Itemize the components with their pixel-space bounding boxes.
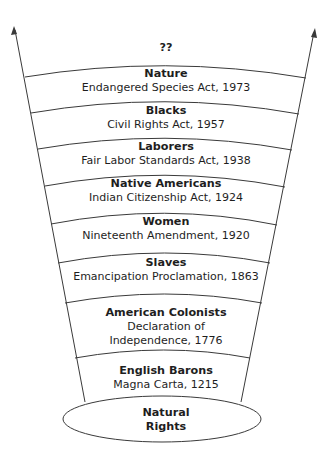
- band-event: Indian Citizenship Act, 1924: [0, 191, 332, 205]
- arc-divider: [65, 294, 262, 303]
- band-event: Fair Labor Standards Act, 1938: [0, 154, 332, 168]
- band-english-barons: English Barons Magna Carta, 1215: [0, 364, 332, 392]
- left-arrow-icon: [11, 26, 17, 35]
- band-women: Women Nineteenth Amendment, 1920: [0, 215, 332, 243]
- band-laborers: Laborers Fair Labor Standards Act, 1938: [0, 140, 332, 168]
- band-event: Emancipation Proclamation, 1863: [0, 270, 332, 284]
- band-event: Nineteenth Amendment, 1920: [0, 229, 332, 243]
- band-event: Endangered Species Act, 1973: [0, 81, 332, 95]
- band-event: Declaration of: [0, 320, 332, 334]
- band-native-americans: Native Americans Indian Citizenship Act,…: [0, 177, 332, 205]
- band-title: Slaves: [0, 256, 332, 270]
- band-nature: Nature Endangered Species Act, 1973: [0, 67, 332, 95]
- band-slaves: Slaves Emancipation Proclamation, 1863: [0, 256, 332, 284]
- band-event: Independence, 1776: [0, 334, 332, 348]
- band-american-colonists: American Colonists Declaration of Indepe…: [0, 306, 332, 348]
- band-event: Civil Rights Act, 1957: [0, 118, 332, 132]
- top-label: ??: [0, 41, 332, 55]
- band-title: Laborers: [0, 140, 332, 154]
- band-event: Magna Carta, 1215: [0, 378, 332, 392]
- base-natural-rights: Natural Rights: [0, 406, 332, 434]
- band-blacks: Blacks Civil Rights Act, 1957: [0, 104, 332, 132]
- arc-divider: [75, 350, 250, 358]
- band-title: Nature: [0, 67, 332, 81]
- band-title: Native Americans: [0, 177, 332, 191]
- band-title: Women: [0, 215, 332, 229]
- band-title: Blacks: [0, 104, 332, 118]
- right-arrow-icon: [311, 28, 317, 38]
- band-title: English Barons: [0, 364, 332, 378]
- band-title: American Colonists: [0, 306, 332, 320]
